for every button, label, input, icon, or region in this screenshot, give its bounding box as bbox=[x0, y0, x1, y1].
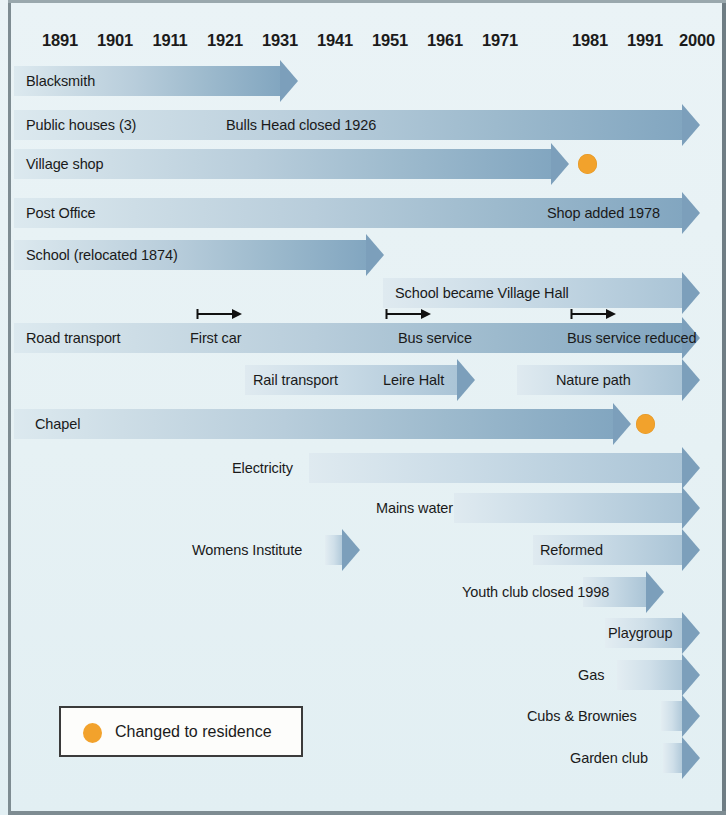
axis-year-label: 1901 bbox=[97, 31, 133, 50]
timeline-bar bbox=[454, 493, 700, 523]
bar-label: Post Office bbox=[26, 198, 96, 228]
bar-label: School became Village Hall bbox=[395, 278, 569, 308]
changed-to-residence-dot-icon bbox=[578, 154, 597, 174]
axis-year-label: 1981 bbox=[572, 31, 608, 50]
timeline-row: Village shop bbox=[0, 149, 726, 187]
bar-label: Garden club bbox=[570, 743, 648, 773]
bar-body bbox=[661, 701, 683, 731]
bar-arrowhead-icon bbox=[682, 529, 700, 571]
axis-year-label: 1961 bbox=[427, 31, 463, 50]
bar-label: Rail transport bbox=[253, 365, 338, 395]
timeline-row: Playgroup bbox=[0, 618, 726, 656]
axis-year-label: 1891 bbox=[42, 31, 78, 50]
axis-year-label: 1951 bbox=[372, 31, 408, 50]
timeline-row: Blacksmith bbox=[0, 66, 726, 104]
timeline-bar bbox=[661, 701, 700, 731]
bar-arrowhead-icon bbox=[682, 487, 700, 529]
changed-to-residence-dot-icon bbox=[636, 414, 655, 434]
event-arrow-icon bbox=[385, 307, 431, 321]
bar-arrowhead-icon bbox=[682, 612, 700, 654]
timeline-row: Road transportFirst carBus serviceBus se… bbox=[0, 323, 726, 361]
event-arrow-icon bbox=[570, 307, 616, 321]
orange-dot-icon bbox=[83, 723, 102, 743]
bar-label: Youth club closed 1998 bbox=[462, 577, 609, 607]
axis-year-label: 1991 bbox=[627, 31, 663, 50]
timeline-row: Electricity bbox=[0, 453, 726, 491]
timeline-row: Mains water bbox=[0, 493, 726, 531]
bar-label: Blacksmith bbox=[26, 66, 95, 96]
bar-body bbox=[454, 493, 683, 523]
timeline-row: School (relocated 1874) bbox=[0, 240, 726, 278]
bar-label: Bulls Head closed 1926 bbox=[226, 110, 376, 140]
timeline-row: Rail transportLeire HaltNature path bbox=[0, 365, 726, 403]
axis-year-label: 1921 bbox=[207, 31, 243, 50]
bar-arrowhead-icon bbox=[682, 695, 700, 737]
bar-arrowhead-icon bbox=[646, 571, 664, 613]
legend: Changed to residence bbox=[59, 706, 303, 757]
timeline-chart: 1891190119111921193119411951196119711981… bbox=[0, 0, 726, 815]
timeline-bar bbox=[617, 660, 700, 690]
timeline-row: Womens InstituteReformed bbox=[0, 535, 726, 573]
bar-arrowhead-icon bbox=[682, 192, 700, 234]
bar-label: Chapel bbox=[35, 409, 80, 439]
bar-label: Reformed bbox=[540, 535, 603, 565]
legend-label: Changed to residence bbox=[115, 708, 272, 755]
bar-label: Electricity bbox=[232, 453, 293, 483]
bar-arrowhead-icon bbox=[682, 359, 700, 401]
timeline-bar bbox=[309, 453, 700, 483]
bar-body bbox=[663, 743, 683, 773]
bar-label: Gas bbox=[578, 660, 604, 690]
bar-arrowhead-icon bbox=[551, 143, 569, 185]
bar-arrowhead-icon bbox=[682, 447, 700, 489]
bar-label: School (relocated 1874) bbox=[26, 240, 178, 270]
timeline-row: Youth club closed 1998 bbox=[0, 577, 726, 615]
bar-body bbox=[325, 535, 343, 565]
bar-arrowhead-icon bbox=[682, 737, 700, 779]
timeline-row: Chapel bbox=[0, 409, 726, 447]
frame-border-bottom bbox=[8, 811, 726, 815]
bar-body bbox=[617, 660, 683, 690]
bar-label: Womens Institute bbox=[192, 535, 302, 565]
bar-label: Cubs & Brownies bbox=[527, 701, 637, 731]
timeline-bar bbox=[325, 535, 360, 565]
bar-label: Public houses (3) bbox=[26, 110, 136, 140]
timeline-row: School became Village Hall bbox=[0, 278, 726, 316]
timeline-bar bbox=[663, 743, 700, 773]
bar-arrowhead-icon bbox=[366, 234, 384, 276]
bar-label: Bus service bbox=[398, 323, 472, 353]
timeline-bar bbox=[14, 409, 631, 439]
bar-arrowhead-icon bbox=[280, 60, 298, 102]
event-arrow-icon bbox=[196, 307, 242, 321]
axis-year-label: 2000 bbox=[679, 31, 715, 50]
bar-label: Shop added 1978 bbox=[547, 198, 660, 228]
bar-label: Mains water bbox=[376, 493, 453, 523]
bar-body bbox=[309, 453, 683, 483]
bar-arrowhead-icon bbox=[682, 104, 700, 146]
bar-arrowhead-icon bbox=[682, 654, 700, 696]
bar-label: Road transport bbox=[26, 323, 121, 353]
bar-body bbox=[14, 409, 614, 439]
timeline-row: Gas bbox=[0, 660, 726, 698]
bar-label: Village shop bbox=[26, 149, 104, 179]
bar-arrowhead-icon bbox=[682, 272, 700, 314]
year-axis: 1891190119111921193119411951196119711981… bbox=[0, 0, 726, 60]
bar-label: Bus service reduced bbox=[567, 323, 696, 353]
axis-year-label: 1941 bbox=[317, 31, 353, 50]
bar-label: Nature path bbox=[556, 365, 631, 395]
bar-label: Leire Halt bbox=[383, 365, 444, 395]
axis-year-label: 1911 bbox=[153, 31, 188, 50]
axis-year-label: 1971 bbox=[482, 31, 518, 50]
axis-year-label: 1931 bbox=[262, 31, 298, 50]
bar-arrowhead-icon bbox=[613, 403, 631, 445]
timeline-row: Post OfficeShop added 1978 bbox=[0, 198, 726, 236]
timeline-row: Public houses (3)Bulls Head closed 1926 bbox=[0, 110, 726, 148]
bar-arrowhead-icon bbox=[457, 359, 475, 401]
bar-label: First car bbox=[190, 323, 241, 353]
bar-label: Playgroup bbox=[608, 618, 672, 648]
bar-arrowhead-icon bbox=[342, 529, 360, 571]
